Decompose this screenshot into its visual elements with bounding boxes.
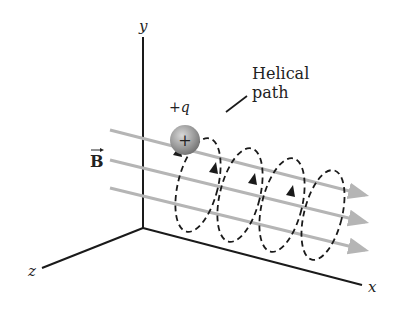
- x-axis: [143, 228, 362, 285]
- path-label-leader: [226, 96, 247, 112]
- field-line-1: [110, 130, 365, 195]
- z-axis: [42, 228, 143, 268]
- charge-symbol: +: [178, 131, 191, 150]
- path-label-line2: path: [252, 83, 289, 102]
- path-arrow-4: [286, 185, 295, 197]
- y-axis-label: y: [138, 17, 148, 35]
- x-axis-label: x: [368, 278, 377, 296]
- charge-particle: +: [170, 125, 200, 155]
- field-line-3: [110, 188, 365, 250]
- field-vector-symbol: B: [90, 152, 104, 171]
- magnetic-field-lines: [110, 130, 365, 250]
- path-arrow-2: [209, 162, 218, 174]
- path-label-line1: Helical: [252, 64, 309, 83]
- helical-path-diagram: y z x + +q Helical path B: [0, 0, 400, 317]
- axes: y z x: [27, 17, 377, 296]
- field-label: B: [90, 148, 104, 171]
- path-arrow-3: [248, 173, 257, 185]
- z-axis-label: z: [27, 262, 36, 280]
- helical-path: [167, 134, 353, 265]
- charge-label: +q: [169, 99, 190, 115]
- field-line-2: [110, 160, 365, 222]
